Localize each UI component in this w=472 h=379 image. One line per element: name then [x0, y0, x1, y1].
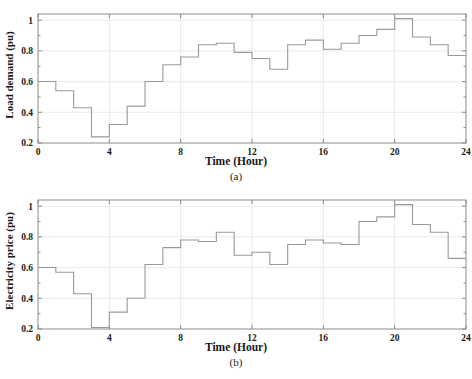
chart-a-ytick-label: 1 — [28, 16, 33, 26]
chart-a-ytick-label: 0.4 — [21, 108, 33, 118]
chart-a-ytick-label: 0.8 — [21, 46, 33, 56]
chart-b-ytick-label: 0.2 — [21, 324, 33, 334]
y-axis-label-a: Load demand (pu) — [0, 10, 18, 140]
chart-a-ytick-label: 0.2 — [21, 138, 33, 148]
x-axis-label-a: Time (Hour) — [0, 155, 472, 167]
chart-a-ytick-label: 0.6 — [21, 77, 33, 87]
subcaption-b: (b) — [0, 356, 472, 368]
chart-b-ytick-label: 0.8 — [21, 232, 33, 242]
y-axis-label-b: Electricity price (pu) — [0, 196, 18, 326]
chart-panel-b: 048121620240.20.40.60.81 Electricity pri… — [0, 186, 472, 379]
subcaption-a: (a) — [0, 170, 472, 182]
y-axis-label-b-text: Electricity price (pu) — [3, 212, 15, 310]
plot-area-b: 048121620240.20.40.60.81 — [0, 186, 472, 346]
figure-container: 048121620240.20.40.60.81 Load demand (pu… — [0, 0, 472, 379]
chart-b-ytick-label: 1 — [28, 202, 33, 212]
chart-b-ytick-label: 0.4 — [21, 294, 33, 304]
plot-area-a: 048121620240.20.40.60.81 — [0, 0, 472, 160]
x-axis-label-b: Time (Hour) — [0, 341, 472, 353]
chart-panel-a: 048121620240.20.40.60.81 Load demand (pu… — [0, 0, 472, 186]
y-axis-label-a-text: Load demand (pu) — [3, 31, 15, 118]
electricity-price-chart: 048121620240.20.40.60.81 — [0, 186, 472, 346]
chart-b-ytick-label: 0.6 — [21, 263, 33, 273]
load-demand-chart: 048121620240.20.40.60.81 — [0, 0, 472, 160]
